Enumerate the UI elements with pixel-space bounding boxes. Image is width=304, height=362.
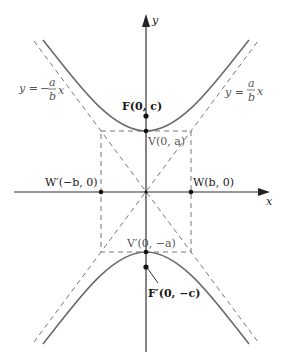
origin-point: [145, 191, 148, 194]
focus-bottom-leader: [148, 269, 158, 283]
focus-top-label: F(0, c): [122, 100, 162, 113]
y-axis-arrow-icon: [142, 14, 150, 27]
vertex-bottom-label: V′(0, −a): [126, 237, 176, 250]
eq-pos-var: x: [257, 85, 264, 98]
vertex-top-label: V(0, a): [147, 135, 185, 148]
covertex-right-label: W(b, 0): [193, 176, 234, 189]
asymptote-negative-equation: y = − a b x: [18, 76, 65, 103]
eq-pos-den: b: [248, 91, 255, 104]
covertex-left-point: [99, 190, 104, 195]
y-axis-label: y: [151, 14, 159, 27]
eq-neg-den: b: [49, 90, 56, 103]
x-axis-label: x: [266, 195, 273, 208]
focus-top-point: [143, 113, 148, 118]
focus-bottom-point: [143, 264, 148, 269]
hyperbola-diagram: y x F(0, c) V(0, a) W(b, 0) W′(−b, 0) V′…: [0, 0, 304, 362]
asymptote-positive-equation: y = a b x: [224, 77, 264, 104]
eq-neg-num: a: [49, 76, 56, 89]
eq-neg-sign: −: [40, 82, 49, 95]
focus-bottom-label: F′(0, −c): [148, 287, 200, 300]
eq-pos-num: a: [248, 77, 255, 90]
eq-neg-lhs: y =: [18, 82, 38, 95]
vertex-bottom-point: [144, 250, 149, 255]
eq-pos-lhs: y =: [224, 86, 244, 99]
eq-neg-var: x: [58, 84, 65, 97]
covertex-right-point: [189, 190, 194, 195]
vertex-top-point: [144, 129, 149, 134]
covertex-left-label: W′(−b, 0): [45, 176, 98, 189]
